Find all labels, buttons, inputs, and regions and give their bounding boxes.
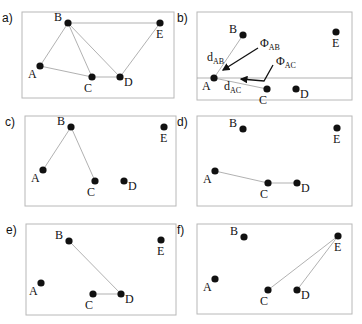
node-B: [240, 233, 247, 240]
panel-frame: [197, 224, 352, 314]
angle-label-ac: ΦAC: [276, 54, 296, 70]
node-label-C: C: [260, 294, 268, 308]
node-D: [293, 179, 300, 186]
node-label-C: C: [85, 298, 93, 312]
node-label-E: E: [156, 27, 163, 41]
node-C: [89, 290, 96, 297]
panel-d: d)ABCDE: [177, 115, 352, 206]
panel-frame: [25, 116, 176, 206]
node-label-E: E: [334, 240, 341, 254]
node-C: [263, 85, 270, 92]
edge-BD: [69, 241, 121, 294]
node-B: [64, 19, 71, 26]
node-label-D: D: [128, 179, 137, 193]
node-label-C: C: [84, 81, 92, 95]
edge-AB: [43, 127, 71, 170]
node-E: [333, 124, 340, 131]
node-E: [160, 123, 167, 130]
node-label-D: D: [125, 292, 134, 306]
node-label-A: A: [202, 79, 211, 93]
node-A: [39, 166, 46, 173]
node-D: [292, 85, 299, 92]
node-label-C: C: [260, 187, 268, 201]
edge-AC: [215, 171, 268, 183]
edge-AB: [40, 23, 68, 66]
panel-b: b)ABCDEdABdACΦABΦAC: [177, 11, 352, 107]
angle-arrow-ab: [223, 48, 258, 70]
node-C: [264, 179, 271, 186]
node-C: [264, 286, 271, 293]
panel-frame: [26, 224, 176, 315]
panel-label: b): [177, 11, 188, 25]
panel-label: f): [177, 223, 184, 237]
node-D: [117, 290, 124, 297]
angle-label-ab: ΦAB: [260, 36, 280, 52]
node-label-A: A: [203, 280, 212, 294]
node-label-D: D: [301, 181, 310, 195]
panel-label: c): [5, 115, 15, 129]
panel-e: e)ABCDE: [6, 223, 176, 315]
panel-f: f)ABCDE: [177, 223, 352, 314]
node-label-D: D: [300, 87, 309, 101]
panel-frame: [197, 116, 352, 206]
distance-label-ab: dAB: [207, 50, 224, 66]
node-label-E: E: [160, 131, 167, 145]
edge-BD: [68, 23, 120, 77]
node-label-A: A: [29, 284, 38, 298]
node-E: [157, 236, 164, 243]
node-E: [156, 19, 163, 26]
panel-label: d): [177, 115, 188, 129]
panel-label: a): [2, 11, 13, 25]
panel-frame: [197, 12, 352, 100]
node-label-B: B: [230, 224, 238, 238]
node-label-D: D: [301, 288, 310, 302]
node-label-B: B: [54, 10, 62, 24]
node-label-A: A: [31, 171, 40, 185]
panel-label: e): [6, 223, 17, 237]
edge-BC: [71, 127, 95, 181]
node-A: [37, 279, 44, 286]
node-label-B: B: [229, 116, 237, 130]
node-label-D: D: [124, 75, 133, 89]
node-E: [332, 28, 339, 35]
panel-c: c)ABCDE: [5, 114, 176, 206]
panel-a: a)ABCDE: [2, 10, 174, 98]
node-D: [120, 177, 127, 184]
node-label-B: B: [57, 114, 65, 128]
node-C: [88, 73, 95, 80]
angle-arrow-ac: [241, 65, 273, 81]
node-label-C: C: [259, 93, 267, 107]
node-B: [239, 31, 246, 38]
network-figure: a)ABCDEb)ABCDEdABdACΦABΦACc)ABCDEd)ABCDE…: [0, 0, 362, 324]
node-D: [293, 286, 300, 293]
node-E: [334, 232, 341, 239]
node-label-E: E: [157, 244, 164, 258]
node-label-E: E: [332, 36, 339, 50]
node-B: [239, 125, 246, 132]
node-label-A: A: [28, 67, 37, 81]
node-A: [211, 275, 218, 282]
edge-AC: [40, 66, 92, 77]
node-B: [65, 237, 72, 244]
node-C: [91, 177, 98, 184]
panel-frame: [22, 12, 174, 98]
node-A: [210, 74, 217, 81]
node-B: [67, 123, 74, 130]
node-label-C: C: [87, 185, 95, 199]
node-D: [116, 73, 123, 80]
edge-DE: [120, 23, 160, 77]
node-label-E: E: [333, 132, 340, 146]
edge-BC: [68, 23, 92, 77]
node-A: [211, 167, 218, 174]
node-A: [36, 62, 43, 69]
node-label-B: B: [229, 22, 237, 36]
node-label-B: B: [55, 228, 63, 242]
node-label-A: A: [203, 172, 212, 186]
